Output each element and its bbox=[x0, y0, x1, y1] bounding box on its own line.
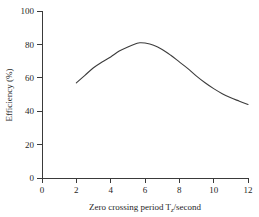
x-tick-label: 10 bbox=[209, 185, 219, 195]
x-axis-title-main: Zero crossing period T bbox=[89, 202, 172, 212]
x-tick-label: 12 bbox=[244, 185, 253, 195]
x-tick-label: 0 bbox=[40, 185, 45, 195]
y-axis-title: Efficiency (%) bbox=[4, 68, 14, 121]
x-axis-title: Zero crossing period Tz/second bbox=[89, 202, 202, 213]
x-tick-label: 8 bbox=[177, 185, 182, 195]
y-tick-label: 100 bbox=[21, 6, 35, 16]
x-axis-title-suffix: /second bbox=[174, 202, 202, 212]
chart-figure: 0 20 40 60 80 100 0 2 4 6 8 10 12 Effici… bbox=[0, 0, 259, 217]
x-tick-label: 2 bbox=[74, 185, 79, 195]
y-tick-label: 60 bbox=[25, 73, 35, 83]
y-tick-label: 0 bbox=[30, 173, 35, 183]
x-tick-label: 4 bbox=[108, 185, 113, 195]
y-tick-label: 40 bbox=[25, 106, 35, 116]
efficiency-line-chart: 0 20 40 60 80 100 0 2 4 6 8 10 12 Effici… bbox=[0, 0, 259, 217]
y-tick-label: 80 bbox=[25, 40, 35, 50]
x-tick-label: 6 bbox=[143, 185, 148, 195]
y-tick-label: 20 bbox=[25, 140, 35, 150]
